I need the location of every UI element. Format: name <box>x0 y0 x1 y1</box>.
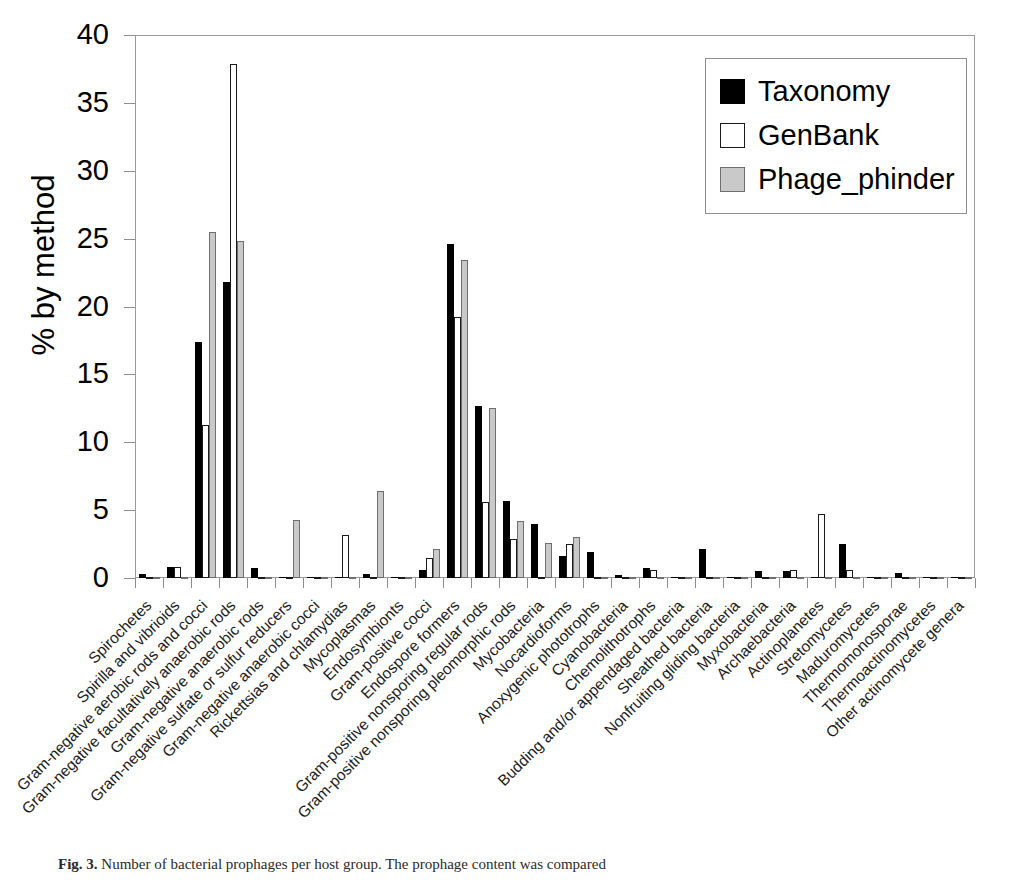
x-tick <box>947 578 948 588</box>
x-tick <box>163 578 164 588</box>
y-tick-label: 30 <box>77 154 109 187</box>
bar-phage-phinder-19 <box>685 577 692 579</box>
bar-phage-phinder-18 <box>657 577 664 579</box>
bar-phage-phinder-20 <box>713 577 720 579</box>
bar-phage-phinder-22 <box>769 577 776 579</box>
x-tick <box>415 578 416 588</box>
bar-phage-phinder-5 <box>293 520 300 578</box>
x-tick <box>639 578 640 588</box>
x-tick <box>975 578 976 588</box>
y-tick-mark <box>124 510 135 511</box>
figure-container: % by method 0510152025303540 Spirochetes… <box>0 0 1022 880</box>
bar-phage-phinder-3 <box>237 241 244 578</box>
bar-genbank-20 <box>706 577 713 579</box>
bar-taxonomy-25 <box>839 544 846 578</box>
bar-taxonomy-21 <box>727 577 734 579</box>
bar-phage-phinder-4 <box>265 577 272 579</box>
bar-genbank-15 <box>566 544 573 578</box>
y-tick-mark <box>124 374 135 375</box>
bar-taxonomy-29 <box>951 577 958 579</box>
bar-taxonomy-0 <box>139 574 146 578</box>
x-tick <box>611 578 612 588</box>
bar-phage-phinder-13 <box>517 521 524 578</box>
x-tick <box>583 578 584 588</box>
bar-phage-phinder-12 <box>489 408 496 578</box>
bar-genbank-7 <box>342 535 349 578</box>
x-tick <box>835 578 836 588</box>
legend-item-phage-phinder[interactable]: Phage_phinder <box>720 157 954 201</box>
bar-taxonomy-10 <box>419 570 426 578</box>
y-tick-mark <box>124 442 135 443</box>
caption-text: Number of bacterial prophages per host g… <box>101 856 606 872</box>
bar-taxonomy-17 <box>615 575 622 578</box>
bar-taxonomy-26 <box>867 577 874 579</box>
bar-taxonomy-5 <box>279 577 286 579</box>
x-tick <box>359 578 360 588</box>
bar-taxonomy-7 <box>335 577 342 579</box>
bar-taxonomy-16 <box>587 552 594 578</box>
bar-genbank-19 <box>678 577 685 579</box>
y-tick-label: 5 <box>93 493 109 526</box>
bar-phage-phinder-29 <box>965 577 972 579</box>
bar-genbank-4 <box>258 577 265 579</box>
bar-phage-phinder-1 <box>181 577 188 579</box>
x-tick <box>275 578 276 588</box>
bar-taxonomy-4 <box>251 568 258 578</box>
bar-phage-phinder-9 <box>405 577 412 579</box>
legend-item-genbank[interactable]: GenBank <box>720 113 954 157</box>
bar-phage-phinder-15 <box>573 537 580 578</box>
x-tick <box>919 578 920 588</box>
bar-phage-phinder-2 <box>209 232 216 578</box>
bar-genbank-25 <box>846 570 853 578</box>
bar-taxonomy-23 <box>783 571 790 578</box>
y-tick-mark <box>124 307 135 308</box>
bar-phage-phinder-0 <box>153 577 160 579</box>
bar-genbank-29 <box>958 577 965 579</box>
legend-item-taxonomy[interactable]: Taxonomy <box>720 69 954 113</box>
y-tick-mark <box>124 239 135 240</box>
bar-genbank-8 <box>370 577 377 579</box>
bar-phage-phinder-25 <box>853 577 860 579</box>
bar-phage-phinder-23 <box>797 577 804 579</box>
bar-taxonomy-1 <box>167 567 174 578</box>
y-tick-label: 35 <box>77 86 109 119</box>
bar-phage-phinder-8 <box>377 491 384 578</box>
bar-genbank-17 <box>622 577 629 579</box>
bar-genbank-13 <box>510 539 517 578</box>
x-tick <box>527 578 528 588</box>
legend-swatch-icon-genbank <box>720 123 745 148</box>
x-tick <box>331 578 332 588</box>
bar-genbank-1 <box>174 567 181 578</box>
bar-genbank-10 <box>426 558 433 578</box>
bar-taxonomy-28 <box>923 577 930 579</box>
bar-genbank-26 <box>874 577 881 579</box>
bar-taxonomy-11 <box>447 244 454 578</box>
x-tick <box>667 578 668 588</box>
x-tick <box>443 578 444 588</box>
bar-taxonomy-22 <box>755 571 762 578</box>
y-tick-label: 25 <box>77 222 109 255</box>
bar-genbank-28 <box>930 577 937 579</box>
x-tick <box>807 578 808 588</box>
y-tick-label: 20 <box>77 290 109 323</box>
x-tick <box>695 578 696 588</box>
y-tick-mark <box>124 578 135 579</box>
bar-genbank-12 <box>482 502 489 578</box>
bar-taxonomy-20 <box>699 549 706 578</box>
bar-taxonomy-12 <box>475 406 482 578</box>
bar-phage-phinder-14 <box>545 543 552 578</box>
bar-genbank-2 <box>202 425 209 578</box>
bar-genbank-22 <box>762 577 769 579</box>
x-tick <box>891 578 892 588</box>
bar-phage-phinder-16 <box>601 577 608 579</box>
bar-genbank-11 <box>454 317 461 578</box>
y-axis-title: % by method <box>26 135 62 395</box>
bar-genbank-9 <box>398 577 405 579</box>
bar-taxonomy-8 <box>363 574 370 578</box>
bar-genbank-14 <box>538 577 545 579</box>
bar-taxonomy-13 <box>503 501 510 578</box>
legend-label-phage-phinder: Phage_phinder <box>758 165 955 194</box>
bar-genbank-21 <box>734 577 741 579</box>
bar-phage-phinder-28 <box>937 577 944 579</box>
bar-phage-phinder-11 <box>461 260 468 578</box>
